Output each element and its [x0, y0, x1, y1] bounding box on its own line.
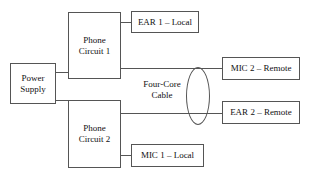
node-mic-1-local: MIC 1 – Local — [131, 144, 204, 167]
wire-cable-lower-to-ear-2-remote — [121, 113, 223, 114]
node-ear-2-remote: EAR 2 – Remote — [222, 101, 300, 124]
node-ear-1-local: EAR 1 – Local — [131, 11, 199, 33]
node-mic-1-local-label: MIC 1 – Local — [141, 150, 194, 161]
node-phone-circuit-1: Phone Circuit 1 — [68, 12, 121, 79]
node-phone-circuit-2-label: Phone Circuit 2 — [79, 123, 111, 145]
node-ear-2-remote-label: EAR 2 – Remote — [230, 107, 292, 118]
node-mic-2-remote: MIC 2 – Remote — [222, 57, 300, 80]
node-mic-2-remote-label: MIC 2 – Remote — [231, 63, 292, 74]
diagram-canvas: Four-Core Cable Power Supply Phone Circu… — [0, 0, 310, 184]
node-phone-circuit-1-label: Phone Circuit 1 — [79, 35, 111, 57]
node-power-supply-label: Power Supply — [20, 73, 46, 95]
node-power-supply: Power Supply — [10, 63, 56, 104]
wire-cable-upper-to-mic-2-remote — [121, 68, 223, 69]
cable-bundle-ellipse — [186, 67, 210, 125]
node-ear-1-local-label: EAR 1 – Local — [138, 17, 192, 28]
node-phone-circuit-2: Phone Circuit 2 — [68, 100, 121, 168]
